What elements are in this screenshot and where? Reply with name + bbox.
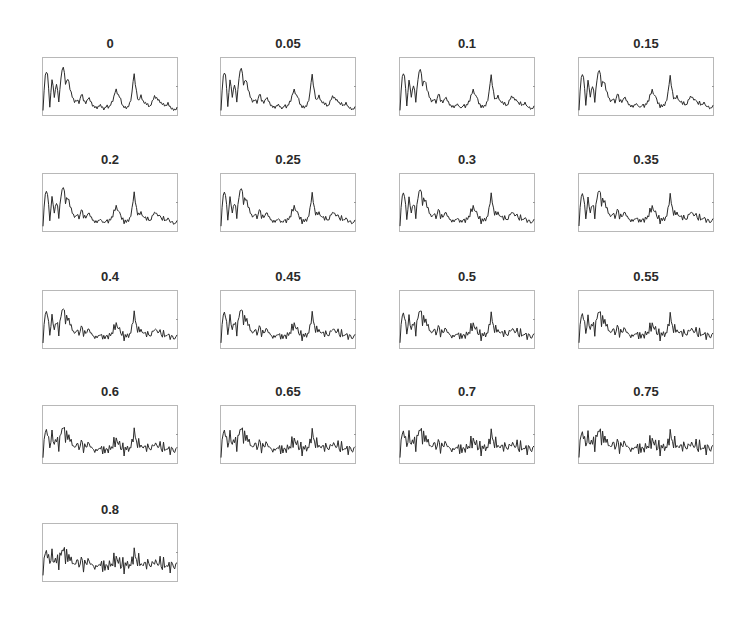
panel-title: 0.55 (578, 269, 714, 284)
plot-area (399, 173, 535, 232)
signal-line (400, 58, 534, 115)
plot-area (578, 290, 714, 349)
plot-area (220, 57, 356, 116)
plot-area (220, 290, 356, 349)
signal-line (221, 406, 355, 463)
plot-area (42, 57, 178, 116)
panel-title: 0.65 (220, 384, 356, 399)
plot-area (578, 405, 714, 464)
panel-title: 0.15 (578, 36, 714, 51)
signal-line (579, 291, 713, 348)
panel-title: 0.6 (42, 384, 178, 399)
panel-title: 0.25 (220, 152, 356, 167)
signal-line (43, 291, 177, 348)
signal-line (43, 58, 177, 115)
panel-title: 0.5 (399, 269, 535, 284)
signal-line (579, 406, 713, 463)
plot-area (578, 57, 714, 116)
plot-area (399, 57, 535, 116)
plot-area (42, 523, 178, 582)
signal-line (43, 174, 177, 231)
signal-line (221, 291, 355, 348)
signal-line (579, 174, 713, 231)
panel-title: 0.7 (399, 384, 535, 399)
panel-title: 0.1 (399, 36, 535, 51)
signal-line (400, 291, 534, 348)
signal-line (400, 406, 534, 463)
plot-area (220, 405, 356, 464)
panel-title: 0.45 (220, 269, 356, 284)
signal-line (221, 174, 355, 231)
panel-title: 0.2 (42, 152, 178, 167)
signal-line (400, 174, 534, 231)
plot-area (42, 290, 178, 349)
panel-title: 0.8 (42, 502, 178, 517)
plot-area (220, 173, 356, 232)
plot-area (399, 290, 535, 349)
plot-area (42, 173, 178, 232)
plot-area (578, 173, 714, 232)
panel-title: 0.4 (42, 269, 178, 284)
signal-line (579, 58, 713, 115)
panel-title: 0.75 (578, 384, 714, 399)
panel-title: 0.35 (578, 152, 714, 167)
plot-area (42, 405, 178, 464)
panel-title: 0.05 (220, 36, 356, 51)
signal-line (221, 58, 355, 115)
panel-title: 0 (42, 36, 178, 51)
panel-title: 0.3 (399, 152, 535, 167)
signal-line (43, 524, 177, 581)
signal-line (43, 406, 177, 463)
plot-area (399, 405, 535, 464)
